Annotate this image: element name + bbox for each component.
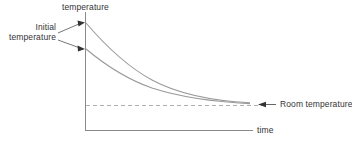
initial-temperature-line-2: temperature (0, 32, 56, 42)
initial-temperature-arrowhead-upper (78, 21, 86, 27)
initial-temperature-arrowhead-lower (78, 46, 86, 52)
initial-temperature-leader-lower (58, 40, 80, 48)
x-axis-label: time (257, 125, 273, 135)
initial-temperature-annotation: Initial temperature (0, 22, 56, 42)
y-axis-label: temperature (62, 2, 109, 12)
room-temperature-annotation: Room temperature (280, 99, 352, 109)
cooling-curve-upper (86, 23, 250, 103)
cooling-curve-lower (86, 49, 250, 104)
initial-temperature-leader-upper (58, 24, 80, 34)
room-temperature-arrowhead (258, 102, 266, 107)
initial-temperature-line-1: Initial (0, 22, 56, 32)
cooling-curve-figure: temperature time Initial temperature Roo… (0, 0, 352, 146)
